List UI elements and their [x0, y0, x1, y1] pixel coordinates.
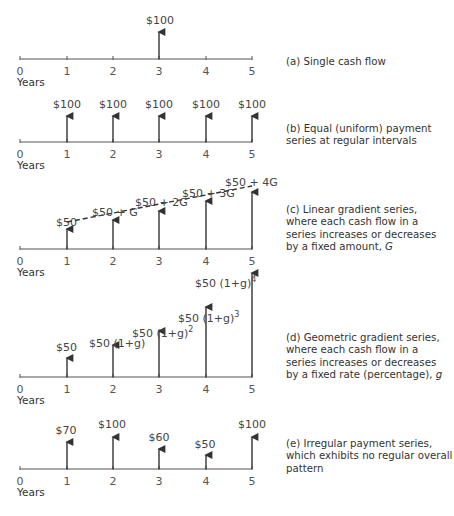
tick-label: 5: [249, 148, 256, 161]
tick-label: 1: [64, 475, 71, 488]
axis-label-years: Years: [16, 76, 45, 88]
tick-label: 3: [156, 255, 163, 268]
cash-flow-label: $50 + G: [92, 206, 138, 219]
tick-label: 2: [110, 475, 117, 488]
tick-label: 1: [64, 383, 71, 396]
caption-panel-b: (b) Equal (uniform) payment series at re…: [286, 123, 431, 148]
caption-line: series increases or decreases: [286, 357, 442, 369]
caption-line: (c) Linear gradient series,: [286, 204, 436, 216]
cash-flow-label: $50: [56, 216, 77, 229]
caption-line: series at regular intervals: [286, 135, 431, 147]
tick-label: 1: [64, 255, 71, 268]
cash-flow-label: $50: [56, 341, 77, 354]
cash-flow-label: $70: [56, 424, 77, 437]
caption-panel-e: (e) Irregular payment series, which exhi…: [286, 438, 452, 475]
tick-label: 5: [249, 383, 256, 396]
panel-d-timeline: 0 1 2 3 4 5 Years $50 $50 (1+g) $50 (1+g…: [16, 273, 256, 406]
cash-flow-label: $50 + 4G: [225, 176, 278, 189]
tick-label: 3: [156, 148, 163, 161]
caption-line: where each cash flow in a: [286, 216, 436, 228]
axis-label-years: Years: [16, 394, 45, 406]
caption-line: by a fixed rate (percentage), g: [286, 369, 442, 381]
tick-label: 4: [203, 255, 210, 268]
cash-flow-label: $100: [99, 98, 127, 111]
tick-label: 4: [203, 65, 210, 78]
cash-flow-label: $100: [238, 98, 266, 111]
cash-flow-label: $100: [145, 98, 173, 111]
caption-line: which exhibits no regular overall: [286, 450, 452, 462]
tick-label: 5: [249, 475, 256, 488]
cash-flow-label: $50 (1+g)2: [132, 325, 193, 340]
tick-label: 5: [249, 65, 256, 78]
tick-label: 5: [249, 255, 256, 268]
tick-label: 1: [64, 148, 71, 161]
cash-flow-label: $50 (1+g)3: [178, 310, 239, 325]
axis-label-years: Years: [16, 486, 45, 498]
caption-line: (e) Irregular payment series,: [286, 438, 452, 450]
caption-line: (a) Single cash flow: [286, 56, 386, 68]
tick-label: 3: [156, 475, 163, 488]
caption-line: where each cash flow in a: [286, 344, 442, 356]
cash-flow-label: $50 (1+g)4: [195, 275, 256, 290]
axis-label-years: Years: [16, 266, 45, 278]
axis-label-years: Years: [16, 159, 45, 171]
cash-flow-label: $50 + 2G: [135, 196, 188, 209]
caption-line: series increases or decreases: [286, 229, 436, 241]
caption-panel-a: (a) Single cash flow: [286, 56, 386, 68]
tick-label: 2: [110, 65, 117, 78]
cash-flow-label: $50: [195, 438, 216, 451]
cash-flow-label: $60: [149, 431, 170, 444]
panel-a-timeline: 0 1 2 3 4 5 Years $100: [16, 14, 256, 88]
tick-label: 2: [110, 383, 117, 396]
cash-flow-label: $100: [146, 14, 174, 27]
caption-panel-c: (c) Linear gradient series, where each c…: [286, 204, 436, 254]
variable-g: g: [436, 369, 442, 380]
caption-line: (d) Geometric gradient series,: [286, 332, 442, 344]
tick-label: 3: [156, 383, 163, 396]
tick-label: 4: [203, 383, 210, 396]
caption-line: (b) Equal (uniform) payment: [286, 123, 431, 135]
cash-flow-label: $100: [238, 418, 266, 431]
cash-flow-label: $100: [53, 98, 81, 111]
caption-line: by a fixed amount, G: [286, 241, 436, 253]
panel-c-timeline: 0 1 2 3 4 5 Years $50 $50 + G $50 + 2G $…: [16, 176, 278, 278]
tick-label: 4: [203, 475, 210, 488]
caption-line: pattern: [286, 463, 452, 475]
tick-label: 3: [156, 65, 163, 78]
tick-label: 2: [110, 255, 117, 268]
panel-e-timeline: 0 1 2 3 4 5 Years $70 $100 $60 $50 $100: [16, 418, 266, 498]
caption-panel-d: (d) Geometric gradient series, where eac…: [286, 332, 442, 382]
cash-flow-label: $100: [192, 98, 220, 111]
cash-flow-label: $100: [98, 418, 126, 431]
tick-label: 2: [110, 148, 117, 161]
variable-G: G: [385, 241, 393, 252]
panel-b-timeline: 0 1 2 3 4 5 Years $100 $100 $100 $100 $1…: [16, 98, 266, 171]
tick-label: 1: [64, 65, 71, 78]
tick-label: 4: [203, 148, 210, 161]
